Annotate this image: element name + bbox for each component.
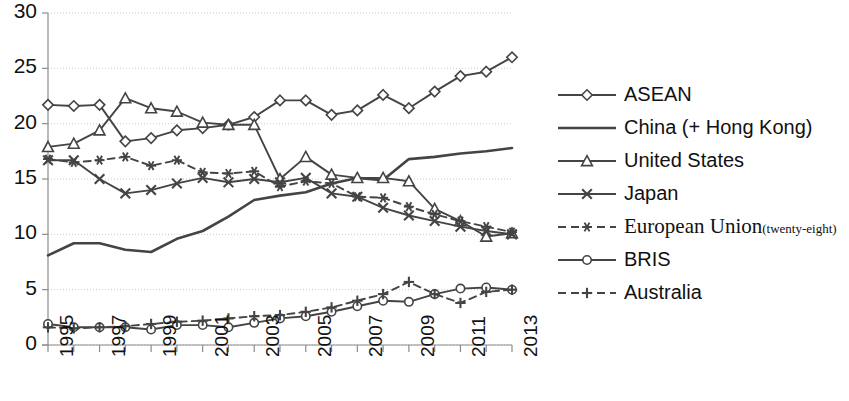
data-point-marker-circle-open [405,298,413,306]
data-point-marker-x-cross [378,203,388,213]
legend-item-japan[interactable]: Japan [556,177,846,210]
data-point-marker-plus [429,289,439,299]
legend-item-label: European Union(twenty-eight) [624,214,837,239]
data-point-marker-diamond-open [172,125,182,135]
data-point-marker-circle-open [456,284,464,292]
data-point-marker-diamond-open [378,90,388,100]
data-point-marker-diamond-open [507,52,517,62]
data-point-marker-diamond-open [352,105,362,115]
legend-item-label: Japan [624,182,679,205]
data-point-marker-diamond-open [301,95,311,105]
legend-marker-circle-open [556,250,618,270]
legend-item-china-hong-kong[interactable]: China (+ Hong Kong) [556,111,846,144]
x-axis-tick-label: 2005 [314,315,336,357]
data-point-marker-diamond-open [69,101,79,111]
series-asean [43,52,517,147]
x-axis-tick-label: 1995 [56,315,78,357]
series-united-states [43,93,518,241]
data-point-marker-asterisk [223,169,233,178]
data-point-marker-plus [455,298,465,308]
data-point-marker-asterisk [404,202,414,211]
legend-item-united-states[interactable]: United States [556,144,846,177]
legend-item-label: BRIS [624,248,671,271]
legend-item-sublabel: (twenty-eight) [762,221,836,236]
data-point-marker-asterisk [172,156,182,165]
data-point-marker-plus [404,277,414,287]
x-axis-tick-label: 2013 [520,315,542,357]
legend-marker-asterisk [556,217,618,237]
x-axis-tick-label: 1999 [159,315,181,357]
data-point-marker-plus [507,284,517,294]
legend-item-label: ASEAN [624,83,692,106]
legend-item-european-union[interactable]: European Union(twenty-eight) [556,210,846,243]
data-point-marker-asterisk [146,161,156,170]
series-china-hong-kong [48,148,512,255]
legend-marker-triangle-open [556,151,618,171]
legend-marker-plus [556,283,618,303]
x-axis-tick-label: 2007 [365,315,387,357]
x-axis-tick-label: 2003 [262,315,284,357]
data-point-marker-triangle-open [300,151,311,161]
data-point-marker-diamond-open [146,133,156,143]
y-axis-tick-label: 0 [25,331,37,355]
data-point-marker-diamond-open [326,110,336,120]
data-point-marker-asterisk [95,156,105,165]
data-point-marker-asterisk [327,179,337,188]
legend-marker-x-cross [556,184,618,204]
data-point-marker-diamond-open [43,100,53,110]
data-point-marker-circle-open [583,255,591,263]
x-axis-tick-label: 1997 [108,315,130,357]
legend-item-label: China (+ Hong Kong) [624,116,812,139]
series-japan [43,155,517,239]
legend-item-bris[interactable]: BRIS [556,243,846,276]
data-point-marker-asterisk [120,153,130,162]
x-axis-tick-label: 2011 [468,316,490,357]
series-line [48,160,512,234]
data-point-marker-plus [582,287,592,297]
data-point-marker-asterisk [378,193,388,202]
data-point-marker-diamond-open [455,71,465,81]
data-point-marker-diamond-open [582,89,592,99]
series-line [48,148,512,255]
line-chart: 051015202530 199519971999200120032005200… [0,0,849,401]
legend-marker-diamond-open [556,85,618,105]
data-point-marker-plus [94,322,104,332]
x-axis-tick-label: 2001 [211,315,233,357]
data-point-marker-triangle-open [120,93,131,103]
y-axis-tick-label: 25 [14,54,37,78]
legend-item-label: Australia [624,281,702,304]
legend-item-asean[interactable]: ASEAN [556,78,846,111]
y-axis-tick-label: 15 [14,165,37,189]
data-point-marker-diamond-open [404,103,414,113]
data-point-marker-asterisk [582,222,592,231]
chart-legend: ASEANChina (+ Hong Kong)United StatesJap… [556,78,846,309]
y-axis-tick-label: 10 [14,220,37,244]
y-axis-tick-label: 20 [14,110,37,134]
data-point-marker-diamond-open [275,95,285,105]
y-axis-tick-label: 5 [25,276,37,300]
data-point-marker-diamond-open [429,86,439,96]
legend-item-label: United States [624,149,744,172]
x-axis-tick-label: 2009 [417,315,439,357]
y-axis-tick-label: 30 [14,0,37,23]
legend-item-australia[interactable]: Australia [556,276,846,309]
legend-marker-none [556,118,618,138]
